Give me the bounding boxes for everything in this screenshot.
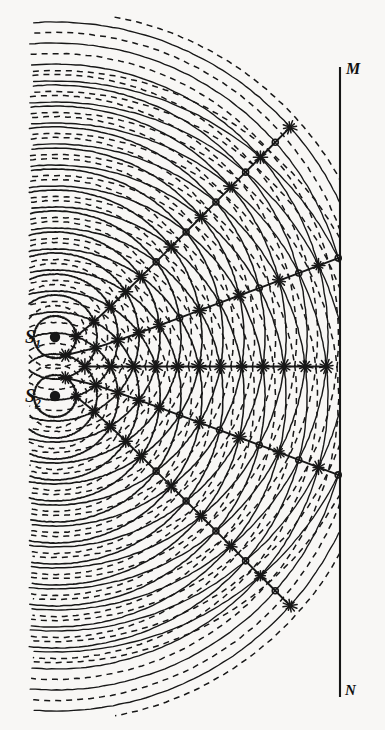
- intersection-core: [169, 484, 173, 488]
- intersection-core: [215, 530, 217, 532]
- interference-diagram-svg: [0, 0, 385, 730]
- intersection-core: [198, 309, 202, 313]
- intersection-core: [139, 275, 143, 279]
- intersection-core: [154, 365, 158, 369]
- intersection-core: [124, 439, 128, 443]
- intersection-core: [288, 125, 292, 129]
- intersection-core: [317, 264, 321, 268]
- intersection-core: [218, 365, 222, 369]
- intersection-core: [240, 365, 244, 369]
- intersection-core: [197, 365, 201, 369]
- intersection-core: [219, 302, 221, 304]
- intersection-core: [108, 424, 112, 428]
- intersection-star: [233, 289, 245, 301]
- intersection-core: [94, 383, 98, 387]
- intersection-core: [199, 514, 203, 518]
- intersection-core: [259, 574, 263, 578]
- intersection-core: [317, 466, 321, 470]
- intersection-core: [298, 272, 300, 274]
- intersection-core: [139, 454, 143, 458]
- intersection-core: [303, 365, 307, 369]
- screen-label-n: N: [345, 683, 356, 698]
- intersection-core: [155, 261, 157, 263]
- intersection-core: [92, 320, 96, 324]
- intersection-core: [116, 338, 120, 342]
- intersection-core: [116, 391, 120, 395]
- intersection-core: [179, 317, 181, 319]
- intersection-core: [109, 365, 113, 369]
- intersection-core: [215, 201, 217, 203]
- intersection-core: [258, 444, 260, 446]
- intersection-core: [258, 287, 260, 289]
- intersection-core: [132, 365, 136, 369]
- intersection-core: [325, 365, 329, 369]
- intersection-core: [124, 290, 128, 294]
- intersection-core: [337, 257, 339, 259]
- intersection-core: [288, 604, 292, 608]
- intersection-core: [169, 245, 173, 249]
- intersection-core: [274, 590, 276, 592]
- intersection-core: [198, 421, 202, 425]
- intersection-core: [74, 335, 78, 339]
- intersection-core: [337, 474, 339, 476]
- intersection-core: [94, 346, 98, 350]
- source-label-s1-subscript: 1: [35, 337, 41, 351]
- intersection-core: [176, 365, 180, 369]
- intersection-core: [157, 323, 161, 327]
- intersection-core: [157, 406, 161, 410]
- source-label-s2: S2: [25, 387, 41, 409]
- intersection-core: [277, 279, 281, 283]
- intersection-core: [298, 459, 300, 461]
- intersection-core: [74, 395, 78, 399]
- source-label-s2-subscript: 2: [35, 396, 41, 410]
- source-label-s2-letter: S: [25, 386, 35, 406]
- intersection-core: [63, 353, 67, 357]
- intersection-core: [63, 376, 67, 380]
- source-dot-s1: [50, 332, 60, 342]
- intersection-core: [229, 185, 233, 189]
- intersection-core: [282, 365, 286, 369]
- intersection-core: [274, 141, 276, 143]
- intersection-core: [229, 544, 233, 548]
- intersection-core: [261, 365, 265, 369]
- intersection-core: [245, 560, 247, 562]
- intersection-core: [155, 470, 157, 472]
- intersection-core: [245, 171, 247, 173]
- intersection-core: [108, 305, 112, 309]
- interference-figure: S1 S2 M N: [0, 0, 385, 730]
- intersection-core: [179, 414, 181, 416]
- intersection-core: [185, 500, 187, 502]
- intersection-core: [237, 294, 241, 298]
- intersection-core: [259, 155, 263, 159]
- source-label-s1: S1: [25, 328, 41, 350]
- source-label-s1-letter: S: [25, 327, 35, 347]
- intersection-core: [137, 398, 141, 402]
- intersection-core: [277, 451, 281, 455]
- intersection-core: [219, 429, 221, 431]
- source-dot-s2: [50, 391, 60, 401]
- intersection-core: [83, 365, 87, 369]
- intersection-core: [199, 215, 203, 219]
- intersection-core: [237, 436, 241, 440]
- intersection-core: [92, 409, 96, 413]
- screen-label-m: M: [346, 61, 360, 77]
- intersection-core: [137, 331, 141, 335]
- intersection-star: [196, 511, 207, 522]
- intersection-core: [185, 231, 187, 233]
